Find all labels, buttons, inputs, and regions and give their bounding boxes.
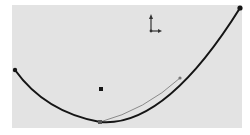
spline-start-point[interactable] <box>13 68 17 72</box>
origin-icon <box>149 14 162 33</box>
tangent-handle-line[interactable] <box>100 78 180 122</box>
tangent-handle-end[interactable] <box>178 76 181 79</box>
spline-end-point[interactable] <box>237 5 242 10</box>
spline-curve[interactable] <box>15 8 240 122</box>
spline-vertex-point[interactable] <box>98 120 102 124</box>
sketch-canvas[interactable] <box>0 0 250 135</box>
center-point[interactable] <box>99 87 103 91</box>
